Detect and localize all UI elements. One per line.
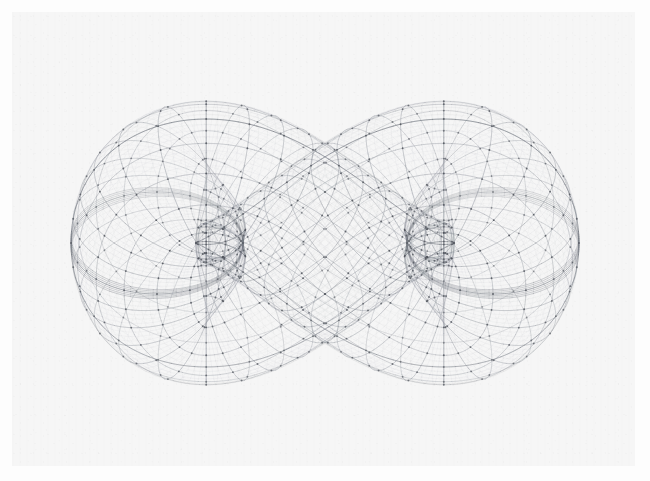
major-parallel-line: [489, 208, 492, 218]
major-meridian-line: [486, 145, 491, 167]
mesh-intersection-dot: [268, 303, 270, 305]
fine-mesh-line-u: [462, 125, 485, 143]
fine-mesh-line-v: [176, 313, 180, 325]
fine-mesh-line-u: [222, 379, 227, 384]
mesh-intersection-dot: [259, 276, 261, 278]
major-meridian-line: [360, 182, 363, 200]
mesh-intersection-dot: [351, 200, 353, 202]
fine-mesh-line-u: [484, 301, 519, 302]
mesh-intersection-dot: [401, 236, 403, 238]
mesh-intersection-dot: [569, 199, 571, 201]
major-parallel-line: [220, 112, 238, 116]
mesh-intersection-dot: [125, 270, 127, 272]
mesh-intersection-dot: [97, 256, 99, 258]
fine-mesh-line-u: [437, 348, 440, 372]
mesh-intersection-dot: [533, 343, 535, 345]
mesh-intersection-dot: [205, 261, 207, 263]
mesh-intersection-dot: [421, 210, 423, 212]
mesh-intersection-dot: [446, 159, 448, 161]
mesh-intersection-dot: [347, 178, 349, 180]
mesh-intersection-dot: [409, 277, 411, 279]
mesh-intersection-dot: [481, 178, 483, 180]
mesh-intersection-dot: [368, 160, 370, 162]
major-meridian-line: [282, 123, 284, 136]
fine-mesh-line-u: [190, 361, 197, 379]
mesh-intersection-dot: [241, 177, 243, 179]
fine-mesh-line-u: [137, 340, 138, 361]
fold-edge-ring: [489, 296, 512, 297]
major-meridian-line: [119, 322, 122, 340]
mesh-intersection-dot: [222, 256, 224, 258]
mesh-intersection-dot: [198, 257, 200, 259]
mesh-intersection-dot: [224, 163, 226, 165]
mesh-intersection-dot: [410, 208, 412, 210]
mesh-intersection-dot: [321, 342, 323, 344]
mesh-intersection-dot: [268, 221, 270, 223]
mesh-intersection-dot: [388, 294, 390, 296]
mesh-intersection-dot: [220, 260, 222, 262]
mesh-intersection-dot: [205, 189, 207, 191]
fine-mesh-line-v: [498, 235, 508, 250]
mesh-intersection-dot: [401, 287, 403, 289]
mesh-intersection-dot: [562, 175, 564, 177]
major-meridian-line: [214, 332, 222, 353]
mesh-intersection-dot: [368, 365, 370, 367]
mesh-intersection-dot: [523, 176, 525, 178]
major-parallel-line: [412, 371, 430, 375]
fine-mesh-line-u: [506, 145, 534, 147]
mesh-intersection-dot: [450, 321, 452, 323]
mesh-intersection-dot: [412, 253, 414, 255]
fine-mesh-line-v: [223, 340, 239, 346]
mesh-intersection-dot: [205, 326, 207, 328]
mesh-intersection-dot: [260, 336, 262, 338]
mesh-intersection-dot: [553, 278, 555, 280]
mesh-intersection-dot: [325, 322, 327, 324]
fine-mesh-line-u: [120, 163, 153, 164]
mesh-intersection-dot: [443, 158, 445, 160]
mesh-intersection-dot: [400, 361, 402, 363]
mesh-intersection-dot: [346, 241, 348, 243]
fine-mesh-line-v: [198, 137, 209, 138]
fine-mesh-line-u: [448, 304, 481, 316]
fine-mesh-line-v: [181, 253, 187, 262]
mesh-intersection-dot: [240, 265, 242, 267]
mesh-intersection-dot: [297, 127, 299, 129]
mesh-intersection-dot: [136, 122, 138, 124]
major-parallel-line: [524, 176, 526, 189]
fine-mesh-line-u: [485, 194, 505, 222]
mesh-intersection-dot: [79, 285, 81, 287]
fine-mesh-line-u: [366, 136, 370, 161]
mesh-intersection-dot: [549, 191, 551, 193]
mesh-intersection-dot: [526, 356, 528, 358]
major-parallel-line: [124, 176, 126, 189]
mesh-intersection-dot: [205, 130, 207, 132]
mesh-intersection-dot: [242, 271, 244, 273]
mesh-intersection-dot: [310, 319, 312, 321]
mesh-intersection-dot: [410, 237, 412, 239]
mesh-intersection-dot: [247, 287, 249, 289]
fine-mesh-line-v: [441, 348, 452, 349]
mesh-intersection-dot: [569, 193, 571, 195]
mesh-intersection-dot: [430, 268, 432, 270]
mesh-intersection-dot: [223, 198, 225, 200]
mesh-intersection-dot: [549, 332, 551, 334]
mesh-intersection-dot: [380, 182, 382, 184]
major-parallel-line: [142, 223, 152, 234]
mesh-intersection-dot: [125, 214, 127, 216]
fine-mesh-line-u: [484, 184, 519, 185]
mesh-intersection-dot: [302, 207, 304, 209]
major-parallel-line: [457, 269, 459, 277]
mesh-intersection-dot: [217, 206, 219, 208]
mesh-intersection-dot: [205, 173, 207, 175]
mesh-intersection-dot: [301, 306, 303, 308]
mesh-intersection-dot: [334, 335, 336, 337]
mesh-intersection-dot: [302, 277, 304, 279]
mesh-intersection-dot: [444, 232, 446, 234]
mesh-intersection-dot: [241, 379, 243, 381]
mesh-intersection-dot: [118, 145, 120, 147]
mesh-intersection-dot: [428, 260, 430, 262]
fine-mesh-line-v: [276, 204, 297, 219]
mesh-intersection-dot: [446, 231, 448, 233]
fine-mesh-line-u: [485, 264, 505, 292]
fine-mesh-line-u: [362, 326, 385, 344]
